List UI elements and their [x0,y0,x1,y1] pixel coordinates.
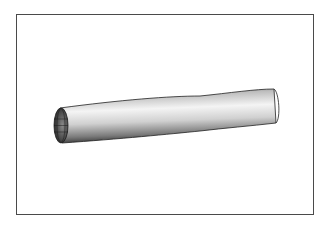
tube-mesh-figure: (function(){ const g=document.currentScr… [0,0,334,239]
tube-body [60,89,276,143]
